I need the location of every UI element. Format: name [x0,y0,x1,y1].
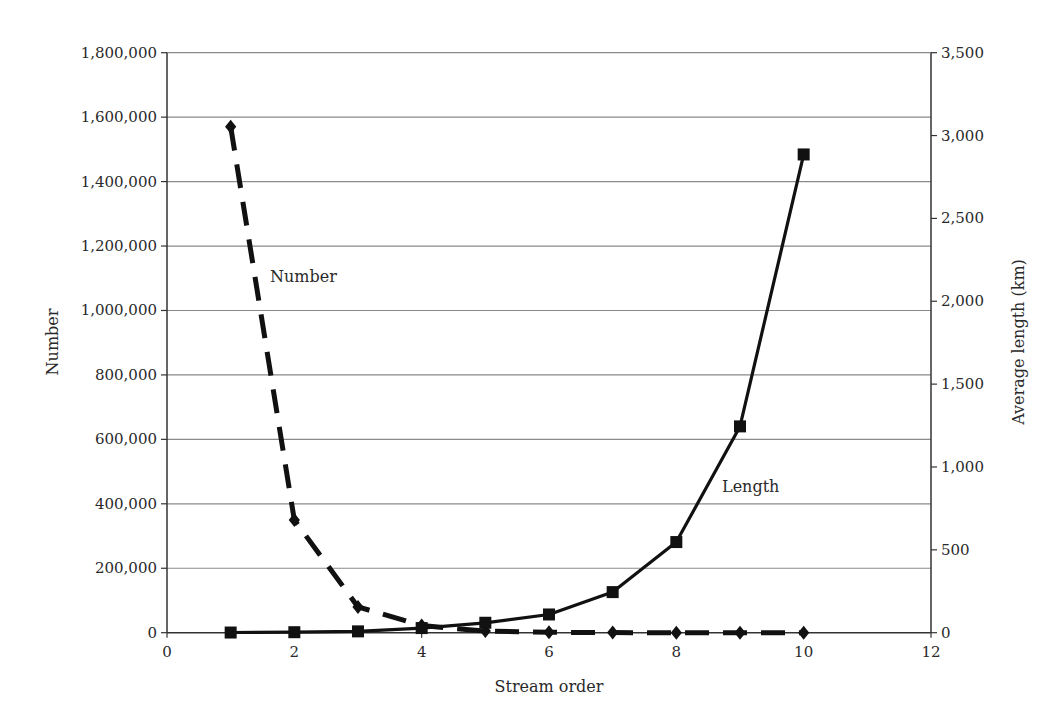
square-marker [670,536,682,548]
x-tick-label: 2 [290,643,300,661]
x-tick-label: 0 [162,643,172,661]
x-tick-label: 10 [794,643,813,661]
y-tick-label-left: 0 [147,624,157,642]
y-tick-label-left: 1,000,000 [81,301,157,319]
diamond-marker [607,626,618,640]
square-marker [543,608,555,620]
chart: 0200,000400,000600,000800,0001,000,0001,… [0,0,1064,724]
square-marker [798,148,810,160]
diamond-marker [798,626,809,640]
diamond-marker [289,513,300,527]
x-tick-label: 6 [544,643,554,661]
series [225,120,810,640]
y-tick-label-right: 2,000 [941,292,984,310]
series-length [225,148,810,638]
y-tick-label-left: 1,400,000 [81,173,157,191]
y-tick-label-left: 600,000 [95,430,157,448]
square-marker [225,627,237,639]
y-axis-title-left: Number [43,308,62,375]
series-line-length [231,154,804,632]
x-tick-label: 8 [672,643,682,661]
square-marker [352,625,364,637]
square-marker [734,420,746,432]
y-tick-label-left: 800,000 [95,366,157,384]
square-marker [607,586,619,598]
y-axis-title-right: Average length (km) [1009,259,1028,426]
square-marker [479,617,491,629]
y-tick-label-right: 2,500 [941,209,984,227]
gridlines [167,53,931,569]
y-tick-label-left: 200,000 [95,559,157,577]
y-tick-label-right: 3,000 [941,127,984,145]
x-tick-label: 12 [921,643,940,661]
square-marker [288,626,300,638]
y-tick-label-right: 3,500 [941,44,984,62]
annotation-number: Number [270,267,337,286]
y-tick-label-right: 1,000 [941,458,984,476]
x-axis-title: Stream order [495,677,604,696]
y-tick-label-right: 1,500 [941,375,984,393]
annotation-length: Length [722,477,779,496]
diamond-marker [734,626,745,640]
axes [161,53,937,638]
x-tick-label: 4 [417,643,427,661]
series-number [225,120,809,640]
chart-svg: 0200,000400,000600,000800,0001,000,0001,… [0,0,1064,724]
y-tick-label-left: 1,200,000 [81,237,157,255]
y-tick-label-right: 0 [941,624,951,642]
y-tick-label-left: 1,600,000 [81,108,157,126]
y-tick-label-left: 400,000 [95,495,157,513]
series-line-number [231,127,804,633]
diamond-marker [543,625,554,639]
y-tick-label-right: 500 [941,541,970,559]
square-marker [416,622,428,634]
diamond-marker [671,626,682,640]
y-tick-label-left: 1,800,000 [81,44,157,62]
diamond-marker [225,120,236,134]
